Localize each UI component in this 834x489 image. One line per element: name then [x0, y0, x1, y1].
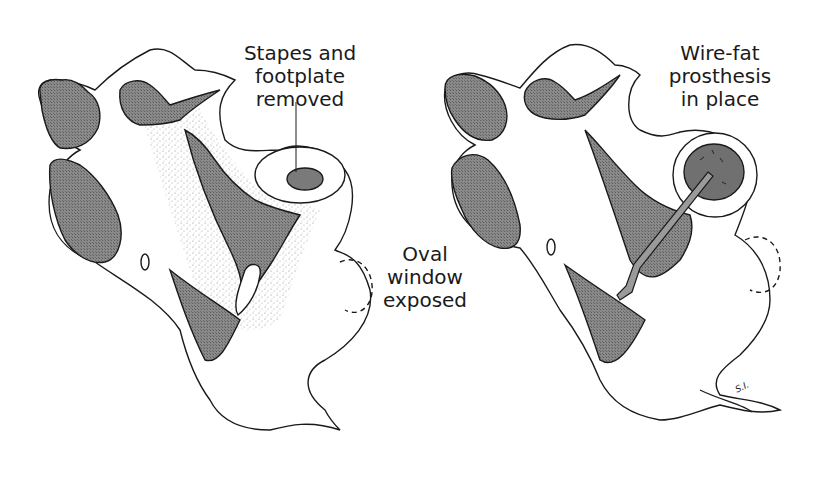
caption-oval-window: Oval window exposed	[380, 243, 470, 312]
caption-line: window	[380, 266, 470, 289]
caption-line: removed	[240, 88, 360, 111]
caption-line: exposed	[380, 289, 470, 312]
caption-stapes-removed: Stapes and footplate removed	[240, 42, 360, 111]
caption-line: Oval	[380, 243, 470, 266]
caption-line: prosthesis	[660, 65, 780, 88]
caption-prosthesis: Wire-fat prosthesis in place	[660, 42, 780, 111]
left-footplate-hole	[287, 168, 323, 190]
caption-line: footplate	[240, 65, 360, 88]
caption-line: Wire-fat	[660, 42, 780, 65]
caption-line: Stapes and	[240, 42, 360, 65]
caption-line: in place	[660, 88, 780, 111]
ear-surgery-illustration: Stapes and footplate removed Oval window…	[0, 0, 834, 489]
